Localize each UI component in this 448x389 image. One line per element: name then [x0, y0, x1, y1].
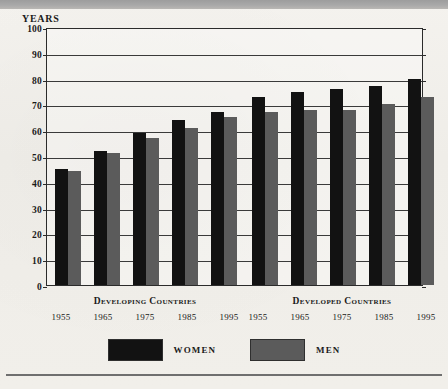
year-label: 1965: [86, 312, 120, 322]
year-label: 1955: [44, 312, 78, 322]
y-axis-tick-label: 50: [32, 153, 42, 163]
year-label: 1975: [128, 312, 162, 322]
bar-women: [252, 97, 265, 285]
year-label-row: 19551965197519851995: [44, 312, 246, 322]
gridline: [47, 55, 422, 56]
legend-label-women: WOMEN: [174, 345, 217, 355]
y-axis-tick-mark-right: [422, 55, 426, 56]
year-label: 1985: [170, 312, 204, 322]
bar-women: [408, 79, 421, 285]
year-label: 1995: [409, 312, 443, 322]
y-axis-tick-label: 90: [32, 50, 42, 60]
gridline: [47, 81, 422, 82]
bar-men: [68, 171, 81, 285]
bar-men: [265, 112, 278, 285]
y-axis-tick-label: 60: [32, 127, 42, 137]
y-axis-tick-mark: [43, 287, 47, 288]
y-axis-tick-mark: [43, 184, 47, 185]
y-axis-tick-label: 30: [32, 205, 42, 215]
bar-men: [224, 117, 237, 285]
bar-women: [94, 151, 107, 285]
chart-legend: WOMEN MEN: [0, 336, 448, 364]
y-axis-tick-label: 80: [32, 76, 42, 86]
bar-men: [146, 138, 159, 285]
bar-women: [172, 120, 185, 285]
bar-women: [211, 112, 224, 285]
y-axis-tick-label: 20: [32, 230, 42, 240]
legend-label-men: MEN: [316, 345, 340, 355]
y-axis-caption: YEARS: [22, 13, 59, 24]
legend-swatch-women: [108, 339, 163, 361]
legend-item-men: MEN: [250, 339, 340, 361]
group-title: Developing Countries: [54, 296, 236, 306]
year-label: 1965: [283, 312, 317, 322]
bar-men: [421, 97, 434, 285]
y-axis-tick-label: 10: [32, 256, 42, 266]
year-label: 1955: [241, 312, 275, 322]
y-axis-tick-label: 40: [32, 179, 42, 189]
legend-item-women: WOMEN: [108, 339, 217, 361]
year-label: 1975: [325, 312, 359, 322]
y-axis-tick-mark: [43, 210, 47, 211]
bar-men: [185, 128, 198, 285]
y-axis-tick-mark-right: [422, 29, 426, 30]
y-axis-tick-mark: [43, 261, 47, 262]
page-top-band: [0, 0, 448, 9]
y-axis-tick-label: 100: [27, 24, 42, 34]
y-axis-tick-label: 0: [37, 282, 42, 292]
y-axis-tick-mark: [43, 158, 47, 159]
gridline: [47, 106, 422, 107]
year-label-row: 19551965197519851995: [241, 312, 443, 322]
y-axis-tick-mark: [43, 81, 47, 82]
y-axis-tick-mark: [43, 235, 47, 236]
bar-women: [291, 92, 304, 286]
y-axis-tick-mark: [43, 29, 47, 30]
year-label: 1985: [367, 312, 401, 322]
bar-men: [107, 153, 120, 285]
group-title: Developed Countries: [251, 296, 433, 306]
y-axis-tick-mark: [43, 55, 47, 56]
y-axis-tick-label: 70: [32, 101, 42, 111]
bar-women: [369, 86, 382, 285]
bar-women: [330, 89, 343, 285]
chart-figure: YEARS 0102030405060708090100 Developing …: [0, 0, 448, 389]
y-axis-tick-mark: [43, 132, 47, 133]
y-axis-tick-mark: [43, 106, 47, 107]
bar-men: [382, 104, 395, 285]
y-axis-tick-mark-right: [422, 81, 426, 82]
bar-men: [343, 110, 356, 285]
legend-swatch-men: [250, 339, 305, 361]
plot-area: 0102030405060708090100: [46, 28, 423, 286]
y-axis-tick-mark-right: [422, 287, 426, 288]
bar-women: [55, 169, 68, 285]
bottom-divider: [6, 374, 442, 376]
bar-men: [304, 110, 317, 285]
bar-women: [133, 133, 146, 285]
